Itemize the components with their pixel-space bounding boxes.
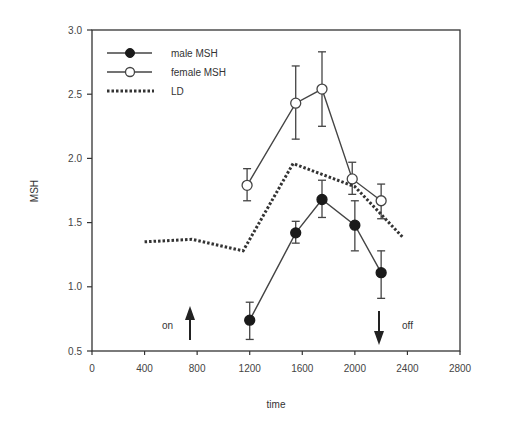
open-circle-icon xyxy=(126,68,135,77)
x-tick-label: 2000 xyxy=(344,363,367,374)
on-label: on xyxy=(162,320,173,331)
x-tick-label: 2400 xyxy=(396,363,419,374)
msh-chart: 040080012001600200024002800 0.51.01.52.0… xyxy=(0,0,508,431)
arrow-down-icon xyxy=(374,311,384,345)
off-label: off xyxy=(402,320,413,331)
filled-circle-icon xyxy=(126,49,135,58)
y-tick-label: 3.0 xyxy=(68,25,82,36)
x-axis-title: time xyxy=(267,399,286,410)
data-point xyxy=(291,228,301,238)
data-point xyxy=(376,196,386,206)
data-point xyxy=(376,268,386,278)
series-ld xyxy=(145,164,404,251)
legend-item-ld: LD xyxy=(107,86,184,97)
y-axis-title: MSH xyxy=(29,180,40,202)
series-male-msh xyxy=(245,180,386,339)
legend-item-female: female MSH xyxy=(107,67,226,78)
x-tick-label: 400 xyxy=(136,363,153,374)
x-tick-label: 0 xyxy=(89,363,95,374)
legend-label-ld: LD xyxy=(171,86,184,97)
legend-label-male: male MSH xyxy=(171,48,218,59)
series-female-msh xyxy=(242,52,386,219)
y-tick-label: 1.5 xyxy=(68,217,82,228)
y-axis-ticks: 0.51.01.52.02.53.0 xyxy=(68,25,92,357)
data-point xyxy=(317,84,327,94)
legend: male MSH female MSH LD xyxy=(107,48,226,97)
data-point xyxy=(245,315,255,325)
data-point xyxy=(350,220,360,230)
x-axis-ticks: 040080012001600200024002800 xyxy=(89,351,471,374)
annotation-on: on xyxy=(162,306,195,340)
y-tick-label: 2.5 xyxy=(68,89,82,100)
data-point xyxy=(317,194,327,204)
arrow-up-icon xyxy=(185,306,195,340)
data-point xyxy=(347,174,357,184)
x-tick-label: 1600 xyxy=(291,363,314,374)
y-tick-label: 0.5 xyxy=(68,346,82,357)
x-tick-label: 2800 xyxy=(449,363,472,374)
legend-label-female: female MSH xyxy=(171,67,226,78)
y-tick-label: 1.0 xyxy=(68,281,82,292)
data-point xyxy=(242,180,252,190)
x-tick-label: 800 xyxy=(189,363,206,374)
annotation-off: off xyxy=(374,311,413,345)
data-point xyxy=(291,98,301,108)
y-tick-label: 2.0 xyxy=(68,153,82,164)
legend-item-male: male MSH xyxy=(107,48,218,59)
x-tick-label: 1200 xyxy=(239,363,262,374)
